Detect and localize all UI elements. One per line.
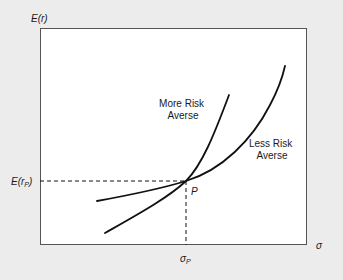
plot-area-frame (41, 29, 307, 245)
less-risk-averse-label-line2: Averse (257, 150, 288, 161)
y-tick-close-paren: ) (28, 176, 32, 187)
y-tick-base: E(r (11, 176, 25, 187)
more-risk-averse-label-line2: Averse (168, 110, 199, 121)
y-axis-title: E(r) (31, 13, 48, 24)
x-tick-subscript: P (186, 258, 191, 265)
x-axis-title: σ (316, 240, 323, 251)
y-tick-label-e-rp: E(rP) (11, 176, 32, 188)
tangency-point-label: P (191, 186, 198, 197)
less-risk-averse-label-line1: Less Risk (249, 138, 293, 149)
more-risk-averse-label-line1: More Risk (159, 98, 205, 109)
risk-aversion-indifference-curve-chart: E(r) σ E(rP) σP P More Risk Averse Less … (0, 0, 343, 280)
